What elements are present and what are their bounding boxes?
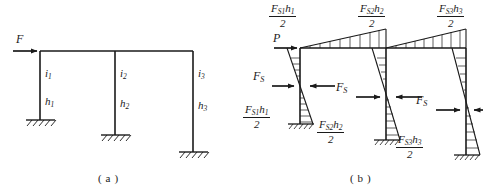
moment-denominator-top-3: 2 <box>437 17 464 29</box>
moment-numerator-top-1: FS1h1 <box>269 3 296 17</box>
moment-numerator-top-2: FS2h2 <box>358 3 385 17</box>
panel-a-load-label: F <box>16 33 23 45</box>
moment-numerator-top-3: FS3h3 <box>437 3 464 17</box>
moment-denominator-bottom-2: 2 <box>317 133 344 145</box>
moment-label-top-2: FS2h2 2 <box>358 3 385 29</box>
panel-a-stiffness-1: i1 <box>45 68 52 80</box>
panel-b-shear-label-2: FS <box>336 81 347 95</box>
moment-denominator-bottom-3: 2 <box>396 148 423 160</box>
panel-a-caption: ( a ) <box>98 172 119 184</box>
panel-b-moment-beam-2 <box>386 29 466 48</box>
moment-numerator-bottom-3: FS3h3 <box>396 134 423 148</box>
moment-denominator-top-2: 2 <box>358 17 385 29</box>
panel-a-stiffness-3: i3 <box>198 68 205 80</box>
figure-canvas <box>0 0 483 194</box>
panel-a-support-3 <box>179 152 209 158</box>
moment-denominator-top-1: 2 <box>269 17 296 29</box>
moment-label-bottom-3: FS3h3 2 <box>396 134 423 160</box>
panel-a-height-1: h1 <box>45 96 54 108</box>
panel-b-shear-label-3: FS <box>416 94 427 108</box>
moment-denominator-bottom-1: 2 <box>243 118 270 130</box>
figure-root: F i1 h1 i2 h2 i3 h3 ( a ) P FS1h1 2 FS2h… <box>0 0 483 194</box>
panel-b-shear-label-1: FS <box>253 70 264 84</box>
panel-b-load-label: P <box>273 32 280 44</box>
moment-label-bottom-1: FS1h1 2 <box>243 104 270 130</box>
panel-a-stiffness-2: i2 <box>120 68 127 80</box>
moment-numerator-bottom-2: FS2h2 <box>317 119 344 133</box>
panel-a-height-2: h2 <box>120 98 129 110</box>
moment-label-top-3: FS3h3 2 <box>437 3 464 29</box>
panel-a-height-3: h3 <box>198 100 207 112</box>
moment-numerator-bottom-1: FS1h1 <box>243 104 270 118</box>
panel-a-frame <box>40 51 193 152</box>
panel-b-moment-beam-1 <box>300 29 386 48</box>
panel-b-caption: ( b ) <box>350 172 371 184</box>
moment-label-top-1: FS1h1 2 <box>269 3 296 29</box>
panel-a-support-2 <box>101 135 131 141</box>
panel-a-support-1 <box>26 120 56 126</box>
moment-label-bottom-2: FS2h2 2 <box>317 119 344 145</box>
